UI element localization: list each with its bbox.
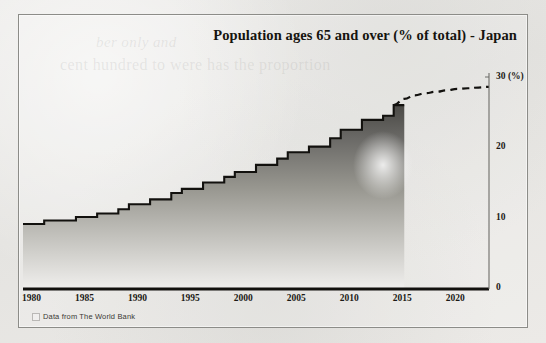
chart-svg [19,15,529,329]
area-fill [23,105,404,288]
x-tick-2000: 2000 [234,293,253,303]
scan-glow [353,131,413,199]
y-tick-0: 0 [496,282,501,292]
source-marker-icon [32,313,40,321]
x-tick-2010: 2010 [340,293,359,303]
chart-frame: Population ages 65 and over (% of total)… [18,14,528,328]
x-tick-1985: 1985 [75,293,94,303]
plot-area [19,15,529,329]
x-tick-1995: 1995 [181,293,200,303]
y-tick-20: 20 [496,141,506,151]
projection-line-dashed [394,87,489,105]
y-tick-30: 30 (%) [496,71,524,81]
x-tick-1990: 1990 [128,293,147,303]
source-note: Data from The World Bank [43,312,135,321]
series-layer [23,87,489,288]
x-tick-2005: 2005 [287,293,306,303]
y-tick-10: 10 [496,212,506,222]
x-tick-2015: 2015 [393,293,412,303]
x-tick-2020: 2020 [446,293,465,303]
y-axis-unit-label: (%) [508,71,524,81]
x-tick-1980: 1980 [22,293,41,303]
